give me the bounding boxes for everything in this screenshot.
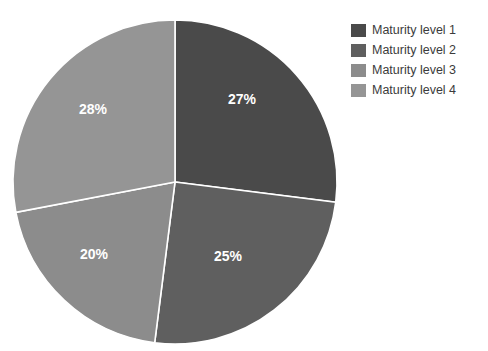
pie-slices-group: [13, 20, 337, 344]
pie-slice-value-label: 25%: [214, 248, 243, 264]
pie-chart-figure: 27%25%20%28% Maturity level 1 Maturity l…: [0, 0, 488, 351]
pie-slice[interactable]: [175, 20, 337, 202]
legend-item-maturity-level-1[interactable]: Maturity level 1: [351, 20, 488, 40]
legend-swatch-icon: [351, 84, 366, 97]
pie-svg: 27%25%20%28%: [0, 0, 348, 351]
legend-item-label: Maturity level 2: [372, 44, 456, 57]
legend-item-label: Maturity level 1: [372, 24, 456, 37]
pie-plot-area: 27%25%20%28%: [0, 0, 348, 351]
legend-item-maturity-level-3[interactable]: Maturity level 3: [351, 60, 488, 80]
legend-swatch-icon: [351, 64, 366, 77]
legend: Maturity level 1 Maturity level 2 Maturi…: [351, 20, 488, 100]
pie-slice[interactable]: [155, 182, 336, 344]
pie-slice-value-label: 20%: [80, 246, 109, 262]
legend-swatch-icon: [351, 24, 366, 37]
legend-item-label: Maturity level 4: [372, 84, 456, 97]
legend-item-maturity-level-2[interactable]: Maturity level 2: [351, 40, 488, 60]
legend-item-label: Maturity level 3: [372, 64, 456, 77]
legend-swatch-icon: [351, 44, 366, 57]
pie-slice-value-label: 27%: [228, 91, 257, 107]
legend-item-maturity-level-4[interactable]: Maturity level 4: [351, 80, 488, 100]
pie-slice-value-label: 28%: [79, 101, 108, 117]
